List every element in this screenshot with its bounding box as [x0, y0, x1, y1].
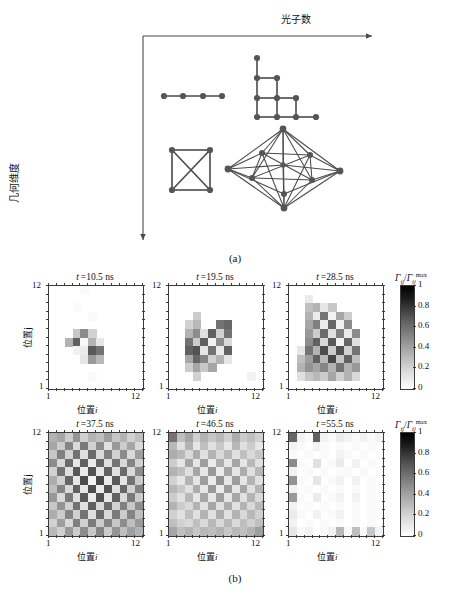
x-axis-max-label: 12 — [251, 538, 260, 548]
x-tick — [239, 535, 240, 538]
x-tick — [343, 388, 344, 391]
y-axis-label: 位置j — [21, 457, 34, 511]
x-tick-top — [319, 430, 320, 433]
y-tick — [286, 311, 289, 312]
y-tick-right — [382, 441, 385, 442]
y-tick — [286, 285, 289, 286]
x-tick — [304, 535, 305, 538]
y-axis-max-label: 12 — [152, 427, 161, 437]
x-tick-top — [168, 430, 169, 433]
colorbar-tick — [413, 306, 416, 307]
x-tick-top — [223, 430, 224, 433]
y-tick-right — [262, 354, 265, 355]
y-tick-right — [262, 379, 265, 380]
x-tick-top — [95, 283, 96, 286]
heatmap-title-6: t =55.5 ns — [288, 419, 382, 429]
colorbar-tick — [413, 432, 416, 433]
x-tick-top — [366, 283, 367, 286]
panel-b-heatmaps: t =10.5 ns121112位置i位置jt =19.5 ns121112位置… — [0, 262, 470, 594]
x-tick-top — [288, 283, 289, 286]
heatmap-grid-2 — [168, 285, 264, 390]
heatmap-cell — [96, 355, 104, 364]
y-tick-right — [262, 345, 265, 346]
y-tick — [46, 518, 49, 519]
x-tick-top — [296, 283, 297, 286]
colorbar-tick-label: 0.6 — [418, 467, 429, 477]
y-tick-right — [142, 294, 145, 295]
y-tick-right — [262, 492, 265, 493]
x-tick-top — [246, 283, 247, 286]
colorbar-tick-label: 0.8 — [418, 300, 429, 310]
x-tick-top — [382, 283, 383, 286]
x-tick — [319, 535, 320, 538]
y-tick — [286, 492, 289, 493]
x-tick — [95, 535, 96, 538]
y-tick — [166, 388, 169, 389]
y-tick — [286, 328, 289, 329]
x-tick — [327, 388, 328, 391]
x-axis-max-label: 12 — [371, 391, 380, 401]
y-tick-right — [382, 458, 385, 459]
x-tick-top — [142, 283, 143, 286]
y-tick — [166, 518, 169, 519]
x-tick-top — [254, 430, 255, 433]
y-tick — [286, 432, 289, 433]
y-axis-max-label: 12 — [272, 280, 281, 290]
x-tick — [72, 388, 73, 391]
y-tick — [46, 441, 49, 442]
y-tick-right — [142, 466, 145, 467]
x-tick — [119, 535, 120, 538]
x-tick — [231, 535, 232, 538]
colorbar-tick — [413, 473, 416, 474]
y-tick-right — [262, 458, 265, 459]
y-tick — [166, 509, 169, 510]
x-tick-top — [366, 430, 367, 433]
y-tick — [166, 345, 169, 346]
x-axis-min-label: 1 — [286, 538, 291, 548]
y-tick-right — [382, 501, 385, 502]
x-tick-top — [103, 283, 104, 286]
x-tick — [126, 535, 127, 538]
x-tick-top — [239, 430, 240, 433]
x-tick-top — [312, 283, 313, 286]
y-tick — [46, 388, 49, 389]
y-tick-right — [142, 475, 145, 476]
x-tick — [359, 535, 360, 538]
x-tick-top — [343, 430, 344, 433]
y-tick — [286, 509, 289, 510]
y-tick-right — [262, 285, 265, 286]
y-tick-right — [142, 285, 145, 286]
x-tick — [126, 388, 127, 391]
x-tick — [72, 535, 73, 538]
colorbar-tick-label: 0.2 — [418, 361, 429, 371]
colorbar-label: Γij/Γijmax — [395, 271, 427, 285]
y-tick — [46, 526, 49, 527]
x-tick-top — [56, 283, 57, 286]
x-tick-top — [95, 430, 96, 433]
x-tick — [215, 535, 216, 538]
y-tick-right — [142, 526, 145, 527]
x-tick — [335, 388, 336, 391]
x-tick-top — [176, 430, 177, 433]
heatmap-cell — [208, 363, 216, 372]
colorbar-label: Γij/Γijmax — [395, 418, 427, 432]
x-tick — [64, 535, 65, 538]
heatmap-title-5: t =46.5 ns — [168, 419, 262, 429]
heatmap-title-4: t =37.5 ns — [48, 419, 142, 429]
x-tick — [64, 388, 65, 391]
y-tick — [166, 449, 169, 450]
y-tick-right — [142, 379, 145, 380]
x-tick — [79, 535, 80, 538]
x-axis-min-label: 1 — [166, 538, 171, 548]
y-axis-min-label: 1 — [159, 528, 164, 538]
y-tick — [286, 345, 289, 346]
y-tick-right — [262, 466, 265, 467]
y-tick-right — [382, 432, 385, 433]
y-tick — [166, 492, 169, 493]
x-tick — [304, 388, 305, 391]
heatmap-title-2: t =19.5 ns — [168, 272, 262, 282]
x-tick-top — [288, 430, 289, 433]
x-axis-label: 位置i — [197, 403, 218, 416]
y-tick — [166, 379, 169, 380]
x-tick-top — [312, 430, 313, 433]
